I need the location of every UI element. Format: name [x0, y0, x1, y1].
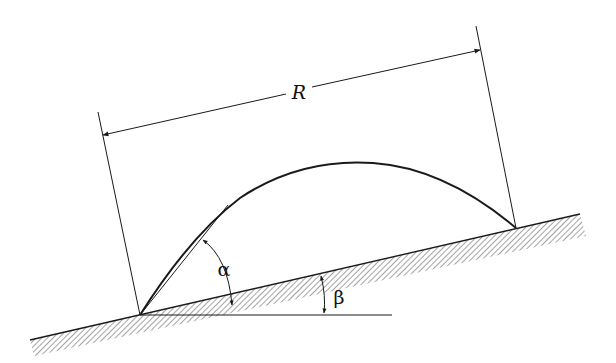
projectile-incline-diagram: R α β	[0, 0, 616, 363]
incline-ground-hatch	[30, 214, 586, 356]
range-dimension-line-right	[312, 50, 480, 87]
beta-label: β	[334, 286, 345, 308]
incline-surface	[30, 214, 580, 340]
extension-line-right	[476, 26, 516, 228]
range-dimension-line-left	[103, 94, 286, 135]
trajectory-curve	[140, 162, 516, 315]
range-label: R	[291, 81, 306, 103]
alpha-label: α	[218, 258, 231, 280]
extension-line-left	[98, 112, 140, 315]
